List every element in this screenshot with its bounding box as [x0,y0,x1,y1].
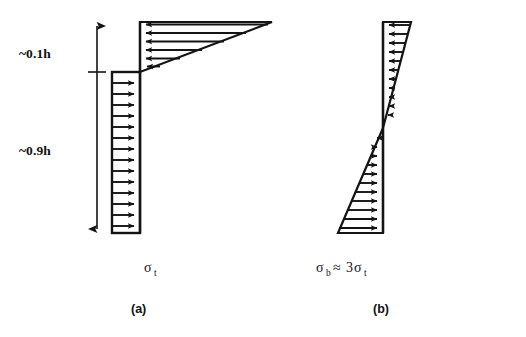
panel-a-group [112,22,272,233]
stress-diagram-svg: ~0.1h ~0.9h [0,0,526,337]
caption-panel-b: (b) [373,302,389,316]
panel-b-sigma-subscript-2: t [364,268,367,278]
dimension-label-lower: ~0.9h [19,143,51,158]
panel-b-sigma-symbol-2: σ [354,260,362,275]
panel-a-stress-label: σ t [144,260,157,278]
panel-b-sigma-symbol: σ [316,260,324,275]
panel-b-factor: 3 [346,260,353,275]
panel-a-sigma-symbol: σ [144,260,152,275]
dimension-label-upper: ~0.1h [19,46,51,61]
figure-container: ~0.1h ~0.9h [0,0,526,337]
panel-b-upper-triangle [383,22,411,128]
panel-a-lower-arrows [113,83,134,226]
panel-a-sigma-subscript: t [154,268,157,278]
panel-b-group [338,22,411,233]
dimension-arrow-group [88,26,106,229]
panel-b-approx-sign: ≈ [333,260,341,275]
panel-b-sigma-subscript: b [326,268,331,278]
caption-panel-a: (a) [131,302,146,316]
panel-a-upper-triangle [140,22,272,72]
panel-b-lower-triangle [338,128,383,233]
panel-b-stress-label: σ b ≈ 3 σ t [316,260,367,278]
panel-a-lower-rectangle [112,72,140,233]
